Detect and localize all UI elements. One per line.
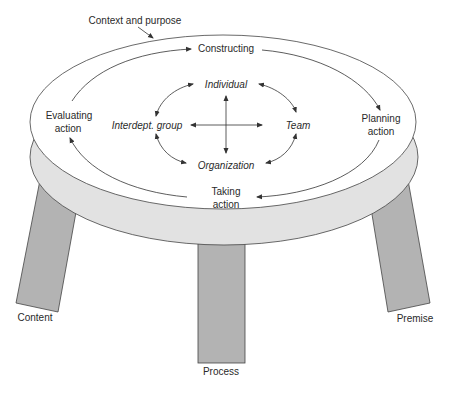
label-evaluating: Evaluating <box>46 110 93 121</box>
label-team: Team <box>286 120 311 131</box>
label-taking-action: action <box>213 199 240 210</box>
label-individual: Individual <box>205 79 248 90</box>
label-planning: Planning <box>362 113 401 124</box>
context-pointer-arrow <box>138 27 153 38</box>
tabletop <box>30 35 416 209</box>
label-planning-action: action <box>368 126 395 137</box>
label-interdept-group: Interdept. group <box>112 120 183 131</box>
three-legged-stool-diagram: Context and purpose Constructing Evaluat… <box>0 0 450 394</box>
label-content: Content <box>17 312 52 323</box>
label-taking: Taking <box>212 186 241 197</box>
label-premise: Premise <box>397 313 434 324</box>
label-organization: Organization <box>198 160 255 171</box>
leg-process <box>198 240 245 363</box>
label-process: Process <box>203 366 239 377</box>
label-constructing: Constructing <box>198 43 254 54</box>
label-context-and-purpose: Context and purpose <box>89 15 182 26</box>
label-evaluating-action: action <box>55 123 82 134</box>
